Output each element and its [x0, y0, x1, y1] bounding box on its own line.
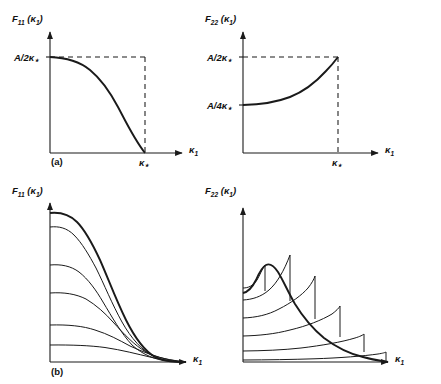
panel-a-left-caption: (a): [51, 156, 63, 167]
panel-a-right-curve: [243, 57, 338, 105]
figure-container: F11 (κ1) A/2κ⋆ (a) κ⋆ κ1 F22 (κ1) A/2κ⋆ …: [0, 0, 441, 384]
panel-a-right-x-axis-label: κ1: [385, 144, 394, 157]
panel-b-right-curve-5: [243, 334, 364, 351]
panel-a-left-x-axis-label: κ1: [189, 144, 198, 157]
panel-b-left-y-axis-label: F11 (κ1): [12, 185, 43, 198]
panel-b-left-curve-4: [50, 325, 186, 362]
panel-b-right-x-axis-label: κ1: [395, 353, 404, 366]
panel-b-left-x-axis-label: κ1: [193, 353, 202, 366]
panel-a-left-ytick-label: A/2κ⋆: [13, 52, 40, 65]
panel-b-right-curve-4: [243, 306, 340, 336]
panel-a-left-xtick-label: κ⋆: [139, 157, 150, 170]
panel-b-right: [243, 208, 388, 362]
panel-b-right-curve-6: [243, 352, 386, 360]
panel-a-right-ytick-upper-label: A/2κ⋆: [206, 52, 233, 65]
panel-a-left-curve: [50, 57, 145, 153]
panel-b-right-curve-2: [243, 255, 290, 300]
panel-b-right-y-axis-label: F22 (κ1): [205, 185, 236, 198]
panel-b-left: [50, 203, 186, 362]
panel-b-left-caption: (b): [51, 366, 63, 377]
panel-a-right-xtick-label: κ⋆: [332, 157, 343, 170]
panel-a-right-ytick-lower-label: A/4κ⋆: [206, 100, 233, 113]
panel-a-left-y-axis-label: F11 (κ1): [12, 13, 43, 26]
panel-a-right: [239, 32, 378, 153]
panel-a-left: [46, 32, 182, 153]
figure-svg: F11 (κ1) A/2κ⋆ (a) κ⋆ κ1 F22 (κ1) A/2κ⋆ …: [0, 0, 441, 384]
panel-a-right-y-axis-label: F22 (κ1): [205, 13, 236, 26]
